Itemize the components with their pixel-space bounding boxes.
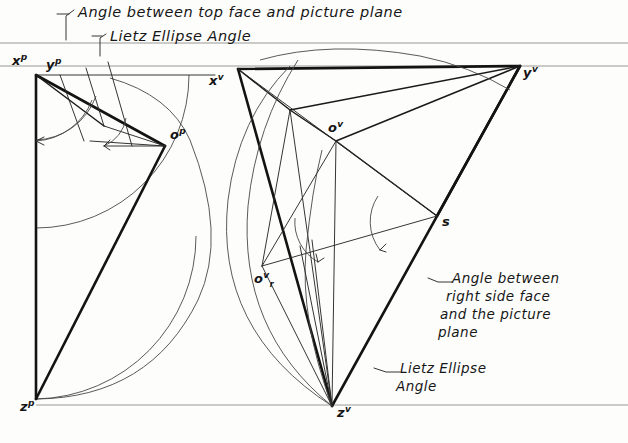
point-label-o-v: ov — [328, 119, 344, 135]
annotation-lietz-ellipse-angle-bottom-line-1: Lietz Ellipse — [400, 360, 486, 376]
point-sup-x-v: v — [218, 72, 224, 82]
point-base-y-p: y — [46, 57, 55, 72]
point-base-x-p: x — [12, 53, 21, 68]
point-sup-o-p: p — [179, 126, 186, 136]
point-label-x-p: xp — [12, 52, 28, 68]
point-label-z-v: zv — [337, 404, 351, 420]
left-plan-figure — [36, 62, 215, 399]
annotation-right-side-face-line-3: and the picture — [440, 306, 551, 322]
point-sup-z-v: v — [345, 404, 351, 414]
point-base-o-r-v: o — [254, 271, 263, 286]
point-sup-y-p: p — [55, 56, 62, 66]
ruled-guide-lines — [0, 43, 628, 405]
point-sup-x-p: p — [21, 52, 28, 62]
drawing-page: .heavy { stroke:#131313; stroke-width:2.… — [0, 0, 628, 443]
annotation-right-side-face-line-4: plane — [438, 324, 478, 340]
point-base-z-p: z — [20, 399, 28, 414]
annotation-lietz-ellipse-angle-bottom-line-2: Angle — [396, 378, 437, 394]
point-label-y-v: yv — [523, 64, 538, 80]
point-label-o-p: op — [170, 126, 186, 142]
point-sub-o-r-v: r — [270, 280, 274, 289]
point-base-o-v: o — [328, 120, 337, 135]
point-sup-y-v: v — [532, 64, 538, 74]
point-label-z-p: zp — [20, 398, 35, 414]
right-perspective-figure — [227, 49, 520, 406]
annotation-top-face-angle: Angle between top face and picture plane — [78, 4, 403, 22]
point-sup-z-p: p — [28, 398, 35, 408]
point-base-x-v: x — [209, 73, 218, 88]
annotation-lietz-ellipse-angle-top: Lietz Ellipse Angle — [110, 28, 251, 46]
point-base-y-v: y — [523, 65, 532, 80]
point-label-s: s — [442, 214, 450, 229]
annotation-right-side-face-line-1: Angle between — [452, 270, 560, 286]
point-label-o-r-v: ovr — [254, 270, 274, 289]
point-sup-o-r-v: v — [263, 270, 269, 280]
point-base-o-p: o — [170, 127, 179, 142]
point-label-x-v: xv — [209, 72, 224, 88]
point-sup-o-v: v — [337, 119, 343, 129]
annotation-right-side-face-line-2: right side face — [446, 288, 550, 304]
point-label-y-p: yp — [46, 56, 62, 72]
point-base-s: s — [442, 214, 450, 229]
point-base-z-v: z — [337, 405, 345, 420]
